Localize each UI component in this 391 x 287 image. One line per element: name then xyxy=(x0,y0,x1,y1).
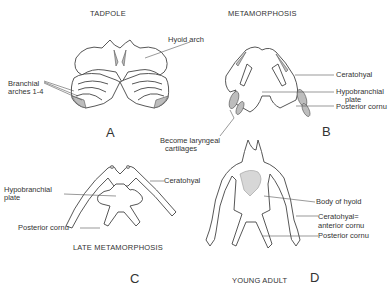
panel-d-letter: D xyxy=(310,270,319,285)
panel-a-letter: A xyxy=(106,125,115,140)
label-ceratohyal-b: Ceratohyal xyxy=(336,71,372,79)
label-laryngeal-line2: cartilages xyxy=(165,145,197,153)
label-posterior-cornu-b: Posterior cornu xyxy=(336,103,387,111)
label-ceratohyal-d-line2: anterior cornu xyxy=(318,222,364,230)
label-posterior-cornu-d: Posterior cornu xyxy=(318,232,369,240)
panel-b-letter: B xyxy=(322,124,331,139)
panel-d-title: YOUNG ADULT xyxy=(232,276,287,285)
label-hypobranchial-c-line2: plate xyxy=(4,194,20,202)
panel-c-letter: C xyxy=(130,271,139,286)
label-body-of-hyoid: Body of hyoid xyxy=(316,198,361,206)
panel-c-drawing xyxy=(64,165,176,228)
panel-b-drawing xyxy=(220,47,334,136)
label-ceratohyal-d-line1: Ceratohyal= xyxy=(318,213,359,221)
label-branchial-arches-line2: arches 1-4 xyxy=(8,88,43,96)
panel-a-drawing xyxy=(44,40,190,108)
panel-c-title: LATE METAMORPHOSIS xyxy=(73,243,163,252)
label-posterior-cornu-c: Posterior cornu xyxy=(18,224,69,232)
label-hyoid-arch: Hyoid arch xyxy=(168,36,204,44)
label-ceratohyal-c: Ceratohyal xyxy=(164,177,200,185)
panel-d-drawing xyxy=(206,140,318,248)
panel-a-title: TADPOLE xyxy=(90,9,126,18)
panel-b-title: METAMORPHOSIS xyxy=(228,9,297,18)
